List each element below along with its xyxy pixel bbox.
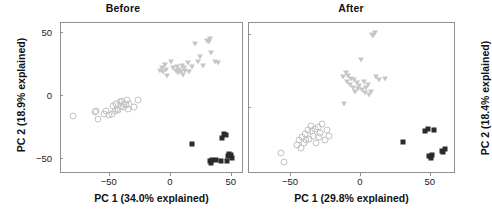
x-axis-title-before: PC 1 (34.0% explained) <box>60 192 243 204</box>
pca-scatter-figure: Before −50050−50050 PC 1 (34.0% explaine… <box>0 0 492 222</box>
panel-before: Before −50050−50050 PC 1 (34.0% explaine… <box>0 0 246 222</box>
data-point-group-square <box>426 126 431 131</box>
y-tick <box>248 107 251 108</box>
data-point-group-triangle <box>186 70 192 75</box>
data-point-group-triangle <box>207 37 213 42</box>
plot-axes-after <box>248 22 455 173</box>
data-point-group-triangle <box>372 31 378 36</box>
data-point-group-triangle <box>341 101 347 106</box>
data-point-group-square <box>189 141 194 146</box>
x-tick-label: 50 <box>425 176 436 187</box>
x-tick-label: −50 <box>101 176 117 187</box>
data-point-group-circle <box>278 150 285 157</box>
data-point-group-triangle <box>163 67 169 72</box>
data-point-group-triangle <box>164 73 170 78</box>
data-point-group-triangle <box>365 82 371 87</box>
data-point-group-square <box>430 152 435 157</box>
panel-after: After −50050 PC 1 (29.8% explained) PC 2… <box>246 0 492 222</box>
data-point-group-circle <box>317 129 324 136</box>
data-point-group-triangle <box>382 76 388 81</box>
data-point-group-circle <box>70 113 77 120</box>
data-point-group-triangle <box>200 63 206 68</box>
data-point-group-square <box>218 159 223 164</box>
data-point-group-circle <box>280 159 287 166</box>
panel-title-before: Before <box>0 2 246 14</box>
data-point-group-square <box>223 132 228 137</box>
data-point-group-triangle <box>189 65 195 70</box>
x-axis-title-after: PC 1 (29.8% explained) <box>248 192 455 204</box>
data-point-group-square <box>400 139 405 144</box>
data-point-group-triangle <box>197 54 203 59</box>
y-tick <box>60 32 63 33</box>
y-tick <box>60 158 63 159</box>
data-point-group-circle <box>93 108 100 115</box>
data-point-group-square <box>442 147 447 152</box>
data-point-group-triangle <box>192 42 198 47</box>
data-point-group-triangle <box>368 89 374 94</box>
data-point-group-circle <box>134 96 141 103</box>
y-tick <box>60 95 63 96</box>
x-tick-label: −50 <box>282 176 298 187</box>
y-axis-title-after: PC 2 (18.4% explained) <box>479 18 491 178</box>
data-point-group-circle <box>325 132 332 139</box>
data-point-group-circle <box>131 104 138 111</box>
x-tick-label: 0 <box>357 176 362 187</box>
plot-area-before <box>61 23 242 172</box>
y-tick <box>248 34 251 35</box>
data-point-group-triangle <box>358 57 364 62</box>
data-point-group-circle <box>94 115 101 122</box>
plot-axes-before <box>60 22 243 173</box>
y-axis-title-before: PC 2 (18.9% explained) <box>15 15 27 175</box>
panel-title-after: After <box>246 2 456 14</box>
data-point-group-triangle <box>208 51 214 56</box>
plot-area-after <box>249 23 454 172</box>
x-tick-label: 50 <box>226 176 237 187</box>
data-point-group-triangle <box>215 61 221 66</box>
x-tick-label: 0 <box>167 176 172 187</box>
data-point-group-square <box>229 155 234 160</box>
data-point-group-square <box>431 128 436 133</box>
data-point-group-triangle <box>168 60 174 65</box>
